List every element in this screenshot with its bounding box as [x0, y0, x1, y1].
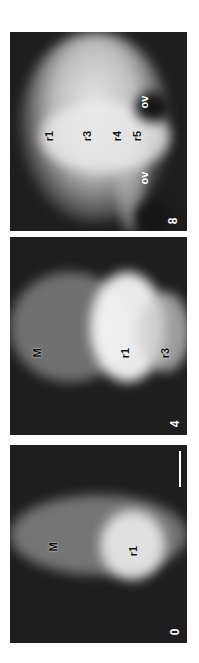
stage-number-8: 8 [166, 218, 180, 225]
label-r3: r3 [159, 348, 171, 358]
label-r1: r1 [127, 546, 139, 556]
label-r5: r5 [131, 131, 143, 141]
scale-bar [179, 451, 181, 487]
panel-stage-4: M r1 r3 4 [10, 237, 187, 435]
label-r4: r4 [111, 131, 123, 141]
label-ov-left: ov [138, 172, 150, 185]
label-r3: r3 [81, 131, 93, 141]
label-M: M [47, 542, 59, 551]
label-r1: r1 [119, 348, 131, 358]
label-ov-right: ov [138, 96, 150, 109]
panel-stage-8: r1 r3 r4 r5 ov ov 8 [10, 32, 187, 231]
stage-number-4: 4 [168, 421, 182, 428]
dark-ov-left [135, 202, 170, 231]
label-r1: r1 [43, 131, 55, 141]
label-M: M [31, 348, 43, 357]
caudal-signal [140, 292, 187, 372]
stage-number-0: 0 [168, 629, 182, 636]
panel-stage-0: M r1 0 [10, 445, 187, 643]
